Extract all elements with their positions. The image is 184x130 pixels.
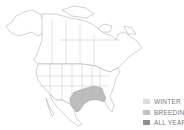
winter-swatch xyxy=(143,99,150,104)
breeding-swatch xyxy=(143,110,150,115)
legend-label: BREEDING xyxy=(154,109,184,116)
legend-item-winter: WINTER xyxy=(143,97,184,106)
legend: WINTER BREEDING ALL YEAR xyxy=(143,97,184,129)
all-year-swatch xyxy=(143,120,150,125)
legend-label: WINTER xyxy=(154,98,181,105)
legend-item-breeding: BREEDING xyxy=(143,108,184,117)
legend-item-all-year: ALL YEAR xyxy=(143,118,184,127)
canada xyxy=(34,14,142,72)
legend-label: ALL YEAR xyxy=(154,119,184,126)
alaska xyxy=(6,10,44,36)
